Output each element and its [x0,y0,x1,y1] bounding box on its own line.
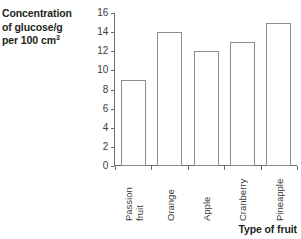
y-axis-tick-label: 0 [92,161,108,171]
y-axis-tick-label: 10 [92,65,108,75]
y-axis-tick-label: 4 [92,123,108,133]
label-line: Cranberry [237,179,248,221]
x-axis-tick-mark [115,166,116,170]
label-line: Pineapple [274,179,285,221]
y-axis-title-superscript: 3 [56,34,60,41]
y-axis-title-line-1: Concentration [2,7,72,19]
y-axis-tick-label: 8 [92,85,108,95]
label-line: fruit [134,187,145,221]
y-axis-title-line-3: per 100 cm [2,34,56,46]
rotated-label-text: Cranberry [237,179,248,221]
plot-area [115,13,297,166]
label-line: Passion [123,187,134,221]
y-axis-tick-label: 14 [92,27,108,37]
y-axis-tick-label: 6 [92,104,108,114]
bar-chart: Concentration of glucose/g per 100 cm3 1… [0,0,301,239]
rotated-label-text: Passionfruit [123,187,145,221]
y-axis-tick-label: 12 [92,46,108,56]
y-axis-title-line-2: of glucose/g [2,21,63,33]
bar [121,80,146,166]
bar [266,23,291,166]
x-axis-tick-mark [224,166,225,170]
label-line: Orange [165,189,176,221]
bar [230,42,255,166]
y-axis-title: Concentration of glucose/g per 100 cm3 [2,7,94,48]
x-axis-title: Type of fruit [238,223,297,235]
x-axis-tick-mark [188,166,189,170]
bar [157,32,182,166]
rotated-label-text: Pineapple [274,179,285,221]
y-axis-tick-label: 2 [92,142,108,152]
x-axis-tick-mark [297,166,298,170]
rotated-label-text: Orange [165,189,176,221]
rotated-label-text: Apple [201,197,212,221]
x-axis-tick-mark [261,166,262,170]
y-axis-tick-label: 16 [92,8,108,18]
bar [194,51,219,166]
x-axis-tick-mark [151,166,152,170]
label-line: Apple [201,197,212,221]
